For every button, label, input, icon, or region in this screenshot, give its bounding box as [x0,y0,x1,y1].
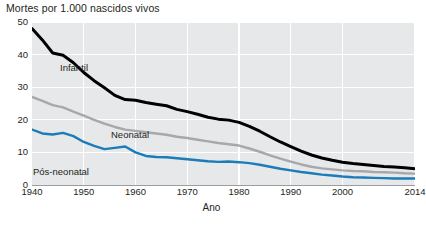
x-axis-tick-label: 2000 [332,186,353,197]
plot-area [32,22,415,185]
x-axis-tick-label: 1950 [73,186,94,197]
y-axis-tick-label: 30 [2,81,28,92]
series-label-infantil: Infantil [60,62,88,73]
y-axis: 01020304050 [0,22,28,185]
series-line-infantil [32,29,415,169]
x-axis-tick-label: 1970 [177,186,198,197]
x-axis-tick-label: 1960 [125,186,146,197]
y-axis-tick-label: 40 [2,49,28,60]
x-axis-tick-label: 1980 [228,186,249,197]
x-axis: 19401950196019701980199020002014 [32,186,415,202]
series-label-pos-neonatal: Pós-neonatal [33,166,89,177]
x-axis-tick-label: 2014 [404,186,425,197]
y-axis-tick-label: 50 [2,16,28,27]
x-axis-tick-label: 1990 [280,186,301,197]
series-label-neonatal: Neonatal [111,129,149,140]
y-axis-tick-label: 20 [2,114,28,125]
y-axis-tick-label: 10 [2,146,28,157]
x-axis-tick-label: 1940 [21,186,42,197]
chart-title: Mortes por 1.000 nascidos vivos [6,2,160,14]
x-axis-label: Ano [0,202,423,213]
series-lines [32,22,415,185]
